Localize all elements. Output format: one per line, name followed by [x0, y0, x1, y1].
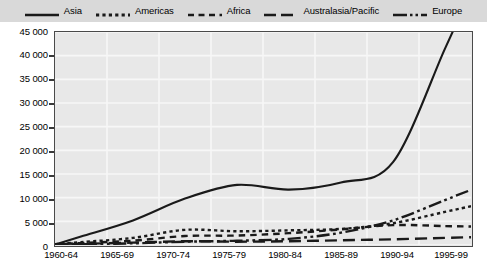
x-tick-1995-99: 1995-99	[416, 250, 486, 260]
legend-label-europe: Europe	[432, 6, 462, 16]
line-dashed-icon	[188, 6, 222, 16]
y-tick-45000: 45 000	[0, 27, 48, 37]
line-dash-dot-icon	[393, 6, 427, 16]
y-tick-20000: 20 000	[0, 146, 48, 156]
chart-legend: Asia Americas Africa	[0, 0, 487, 22]
legend-item-australasia-pacific[interactable]: Australasia/Pacific	[264, 6, 379, 16]
plot-svg	[55, 32, 471, 245]
legend-item-europe[interactable]: Europe	[393, 6, 462, 16]
y-tick-5000: 5 000	[0, 218, 48, 228]
line-long-dash-icon	[264, 6, 298, 16]
line-chart: Asia Americas Africa	[0, 0, 487, 274]
plot-area	[54, 31, 473, 247]
y-tick-30000: 30 000	[0, 98, 48, 108]
legend-item-americas[interactable]: Americas	[96, 6, 174, 16]
legend-label-australasia-pacific: Australasia/Pacific	[303, 6, 379, 16]
line-dotted-icon	[96, 6, 130, 16]
y-tick-35000: 35 000	[0, 74, 48, 84]
y-tick-15000: 15 000	[0, 170, 48, 180]
y-tick-10000: 10 000	[0, 194, 48, 204]
y-tick-25000: 25 000	[0, 122, 48, 132]
legend-label-asia: Asia	[64, 6, 82, 16]
y-axis: 45 000 40 000 35 000 30 000 25 000 20 00…	[0, 0, 50, 274]
x-axis: 1960-64 1965-69 1970-74 1975-79 1980-84 …	[0, 250, 487, 266]
legend-label-americas: Americas	[135, 6, 174, 16]
y-tick-40000: 40 000	[0, 50, 48, 60]
legend-label-africa: Africa	[227, 6, 251, 16]
legend-item-africa[interactable]: Africa	[188, 6, 251, 16]
